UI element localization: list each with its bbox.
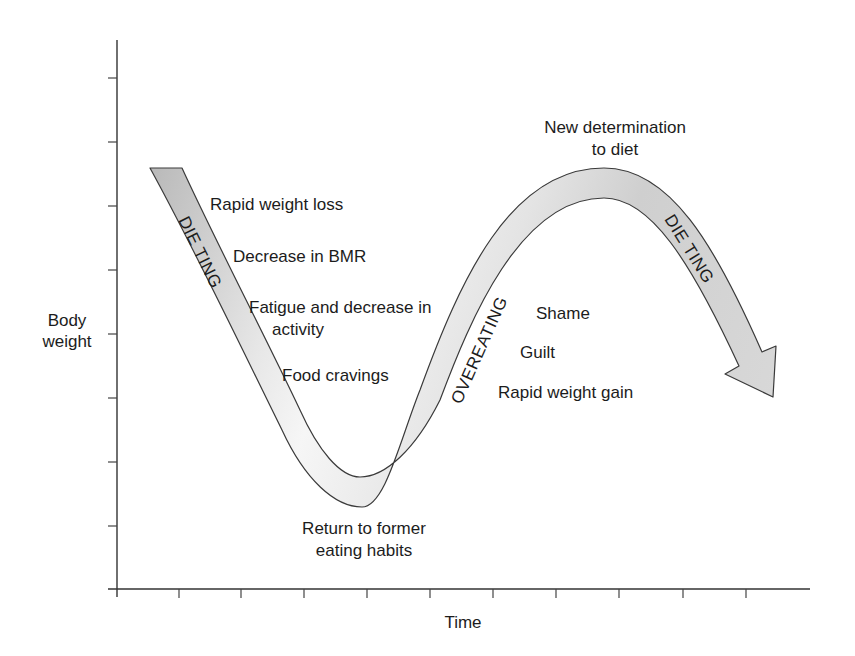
annotation-return-line2: eating habits: [316, 541, 412, 560]
annotation-new-determination-line1: New determination: [544, 118, 686, 137]
annotation-fatigue-line1: Fatigue and decrease in: [249, 298, 431, 317]
annotation-food-cravings: Food cravings: [282, 366, 389, 385]
x-axis: [108, 589, 810, 598]
weight-cycling-diagram: DIE TING OVEREATING DIE TING Body weight…: [0, 0, 855, 656]
y-axis-ticks: [108, 78, 117, 526]
annotation-guilt: Guilt: [520, 343, 555, 362]
annotation-shame: Shame: [536, 304, 590, 323]
y-axis: [108, 40, 117, 597]
annotation-rapid-weight-gain: Rapid weight gain: [498, 383, 633, 402]
x-axis-label: Time: [444, 613, 481, 632]
annotation-fatigue-line2: activity: [272, 320, 324, 339]
y-axis-label-line1: Body: [48, 311, 87, 330]
y-axis-label-line2: weight: [41, 332, 91, 351]
annotation-return-line1: Return to former: [302, 519, 426, 538]
annotation-decrease-bmr: Decrease in BMR: [233, 247, 366, 266]
annotation-new-determination-line2: to diet: [592, 140, 639, 159]
annotation-rapid-weight-loss: Rapid weight loss: [210, 195, 343, 214]
x-axis-ticks: [179, 589, 746, 598]
